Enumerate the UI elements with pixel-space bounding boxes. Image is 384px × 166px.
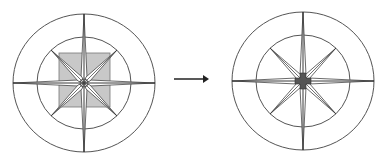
compass-star xyxy=(232,12,374,150)
compass-rose-after xyxy=(232,12,374,150)
transform-arrow xyxy=(174,75,209,83)
compass-star xyxy=(13,14,155,152)
compass-rose-before xyxy=(13,14,155,152)
diagram-canvas xyxy=(0,0,384,166)
